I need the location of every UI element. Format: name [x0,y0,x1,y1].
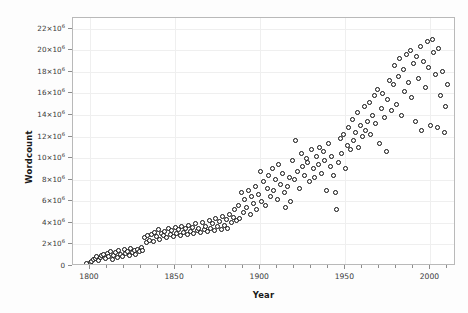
data-point [367,100,372,105]
y-tick-mark [68,136,72,137]
data-point [355,110,360,115]
data-point [421,59,426,64]
y-tick-mark [68,157,72,158]
data-point [409,95,414,100]
data-point [392,63,397,68]
data-point [365,119,370,124]
data-point [440,69,445,74]
data-point [350,117,355,122]
data-point [348,147,353,152]
data-point [346,125,351,130]
y-tick-label: 12×106 [0,130,65,140]
data-point [290,158,295,163]
data-point [224,217,229,222]
data-point [404,52,409,57]
x-tick-mark-minor [140,265,141,268]
data-point [373,121,378,126]
x-tick-mark-major [344,265,345,269]
data-point [212,228,217,233]
data-point [321,149,326,154]
data-point [249,194,254,199]
data-point [363,128,368,133]
data-point [287,175,292,180]
data-point [236,203,241,208]
y-tick-label: 18×106 [0,66,65,76]
data-point [275,197,280,202]
data-point [372,93,377,98]
y-tick-mark [68,265,72,266]
plot-area [72,17,455,265]
data-point [382,115,387,120]
data-point [396,74,401,79]
data-point [266,173,271,178]
data-point [253,184,258,189]
data-point [297,186,302,191]
data-point [265,186,270,191]
y-tick-mark [68,200,72,201]
data-point [368,132,373,137]
data-point [254,207,259,212]
data-point [402,89,407,94]
y-tick-label: 16×106 [0,87,65,97]
data-point [384,149,389,154]
data-point [229,220,234,225]
data-point [329,154,334,159]
data-point [322,158,327,163]
data-point [375,87,380,92]
data-point [311,166,316,171]
x-tick-label: 2000 [420,272,439,281]
y-tick-mark [68,28,72,29]
data-point [268,194,273,199]
scatter-chart: Wordcount 02×1064×1066×1068×10610×10612×… [0,0,468,313]
data-point [312,175,317,180]
data-points [73,18,454,264]
x-tick-label: 1850 [164,272,183,281]
data-point [251,201,256,206]
y-tick-label: 0 [0,261,65,270]
data-point [443,104,448,109]
x-tick-mark-minor [378,265,379,268]
data-point [271,188,276,193]
x-tick-label: 1900 [250,272,269,281]
data-point [314,154,319,159]
x-tick-mark-minor [276,265,277,268]
data-point [430,37,435,42]
data-point [258,169,263,174]
data-point [232,207,237,212]
data-point [353,130,358,135]
x-tick-mark-minor [106,265,107,268]
data-point [426,65,431,70]
data-point [370,113,375,118]
data-point [341,132,346,137]
data-point [300,164,305,169]
data-point [237,216,242,221]
y-tick-label: 10×106 [0,152,65,162]
y-tick-label: 4×106 [0,217,65,227]
data-point [307,179,312,184]
data-point [244,205,249,210]
y-tick-mark [68,71,72,72]
data-point [278,182,283,187]
data-point [425,39,430,44]
x-tick-mark-minor [412,265,413,268]
data-point [324,188,329,193]
data-point [246,188,251,193]
data-point [316,162,321,167]
data-point [276,162,281,167]
data-point [217,219,222,224]
data-point [431,50,436,55]
x-tick-mark-minor [225,265,226,268]
data-point [282,190,287,195]
data-point [399,113,404,118]
x-tick-mark-minor [361,265,362,268]
y-tick-label: 22×106 [0,23,65,33]
data-point [273,177,278,182]
x-tick-mark-minor [242,265,243,268]
data-point [406,80,411,85]
data-point [331,173,336,178]
data-point [380,91,385,96]
data-point [285,184,290,189]
data-point [263,203,268,208]
x-tick-mark-minor [395,265,396,268]
data-point [343,166,348,171]
